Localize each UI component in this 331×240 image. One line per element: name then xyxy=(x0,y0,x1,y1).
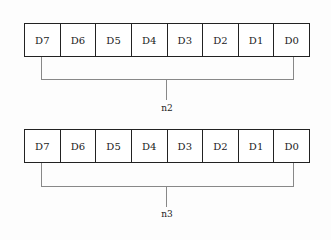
register-bits: D7 D6 D5 D4 D3 D2 D1 D0 xyxy=(24,129,310,163)
bit-cell: D1 xyxy=(239,24,275,56)
bit-cell: D5 xyxy=(96,130,132,162)
bracket-bottom xyxy=(41,79,294,80)
bit-cell: D3 xyxy=(168,24,204,56)
bit-cell: D5 xyxy=(96,24,132,56)
bit-cell: D3 xyxy=(168,130,204,162)
bracket-left xyxy=(41,163,42,186)
bit-cell: D6 xyxy=(61,24,97,56)
bit-cell: D6 xyxy=(61,130,97,162)
bit-cell: D4 xyxy=(132,24,168,56)
register-label: n2 xyxy=(161,103,173,113)
register-bits: D7 D6 D5 D4 D3 D2 D1 D0 xyxy=(24,23,310,57)
bit-cell: D2 xyxy=(203,130,239,162)
bracket-right xyxy=(293,57,294,79)
bit-cell: D0 xyxy=(274,130,309,162)
bit-cell: D0 xyxy=(274,24,309,56)
register-label: n3 xyxy=(161,209,173,219)
bracket-left xyxy=(41,57,42,79)
bit-cell: D1 xyxy=(239,130,275,162)
bit-cell: D4 xyxy=(132,130,168,162)
bracket-stem xyxy=(166,186,167,207)
bracket-right xyxy=(293,163,294,186)
bit-cell: D2 xyxy=(203,24,239,56)
bit-cell: D7 xyxy=(25,24,61,56)
bracket-bottom xyxy=(41,186,294,187)
bracket-stem xyxy=(166,79,167,100)
bit-cell: D7 xyxy=(25,130,61,162)
